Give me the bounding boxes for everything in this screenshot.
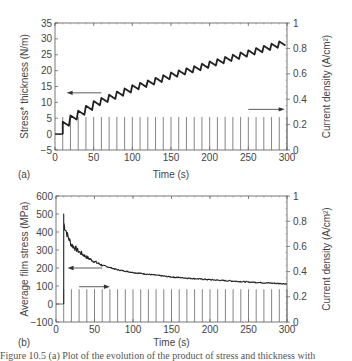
x-tick-label: 50: [89, 324, 101, 335]
y-tick-label: 600: [36, 191, 53, 202]
x-tick-label: 0: [53, 324, 59, 335]
y2-axis-label: Current density (A/cm²): [321, 207, 332, 310]
y-axis-label: Stress* thickness (N/m): [19, 34, 30, 138]
x-tick-label: 50: [88, 152, 100, 163]
x-tick-label: 0: [52, 152, 58, 163]
y2-tick-label: 0.2: [293, 119, 307, 130]
x-tick-label: 200: [202, 324, 219, 335]
y-tick-label: 500: [36, 209, 53, 220]
y2-tick-label: 0.6: [293, 68, 307, 79]
y2-tick-label: 0.2: [293, 291, 307, 302]
x-tick-label: 100: [125, 324, 142, 335]
y-tick-label: 0: [47, 299, 53, 310]
y-tick-label: 35: [41, 18, 53, 29]
x-axis-label: Time (s): [153, 337, 189, 348]
x-tick-label: 150: [163, 152, 180, 163]
y-tick-label: 400: [36, 227, 53, 238]
stress-thickness-curve: [63, 41, 286, 134]
left-arrow-head: [68, 266, 74, 270]
y-axis-label: Average film stress (MPa): [19, 202, 30, 317]
x-tick-label: 250: [240, 152, 257, 163]
y-tick-label: 300: [36, 245, 53, 256]
y-tick-label: 5: [46, 113, 52, 124]
y2-tick-label: 1: [293, 191, 299, 202]
y2-tick-label: 0.8: [293, 43, 307, 54]
y-tick-label: 15: [41, 81, 53, 92]
right-arrow-head: [104, 285, 110, 289]
y2-tick-label: 0: [293, 317, 299, 328]
y-tick-label: −5: [41, 145, 53, 156]
figure-caption: Figure 10.5 (a) Plot of the evolution of…: [0, 350, 315, 361]
x-tick-label: 150: [163, 324, 180, 335]
y-tick-label: 0: [46, 129, 52, 140]
y2-tick-label: 0.4: [293, 266, 307, 277]
x-tick-label: 100: [124, 152, 141, 163]
panel-label: (a): [18, 169, 30, 180]
y2-axis-label: Current density (A/cm²): [321, 35, 332, 138]
y-tick-label: 10: [41, 97, 53, 108]
chart-panel-a: [55, 23, 290, 150]
chart-panel-b: [56, 196, 290, 322]
y-tick-label: −100: [30, 317, 53, 328]
x-tick-label: 200: [201, 152, 218, 163]
y-tick-label: 200: [36, 263, 53, 274]
y2-tick-label: 0.8: [293, 216, 307, 227]
y-tick-label: 20: [41, 65, 53, 76]
y-tick-label: 100: [36, 281, 53, 292]
left-arrow-head: [67, 91, 73, 95]
x-axis-label: Time (s): [153, 169, 189, 180]
y-tick-label: 25: [41, 49, 53, 60]
y2-tick-label: 0.6: [293, 241, 307, 252]
panel-label: (b): [18, 337, 30, 348]
right-arrow-head: [279, 107, 285, 111]
y2-tick-label: 0: [293, 145, 299, 156]
y-tick-label: 30: [41, 33, 53, 44]
y2-tick-label: 1: [293, 18, 299, 29]
x-tick-label: 250: [240, 324, 257, 335]
average-stress-curve: [64, 214, 287, 304]
y2-tick-label: 0.4: [293, 94, 307, 105]
